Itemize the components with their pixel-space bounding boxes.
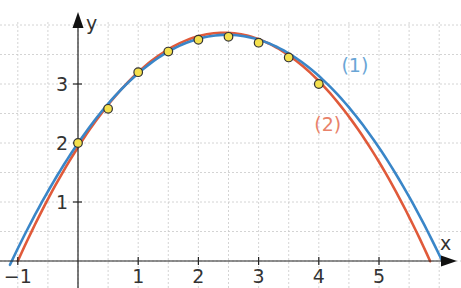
ticks: −112345123 xyxy=(4,73,385,287)
x-axis-label: x xyxy=(440,232,451,254)
curve-label-2: (2) xyxy=(314,113,341,135)
data-point xyxy=(224,33,233,42)
y-tick-label: 3 xyxy=(56,73,68,95)
y-tick-label: 1 xyxy=(56,191,68,213)
y-axis-arrow-icon xyxy=(73,12,84,28)
x-tick-label: 2 xyxy=(192,265,204,287)
curve-1 xyxy=(10,35,442,265)
x-tick-label: 5 xyxy=(373,265,385,287)
data-point xyxy=(74,139,83,148)
x-tick-label: −1 xyxy=(4,265,32,287)
x-tick-label: 3 xyxy=(253,265,265,287)
x-tick-label: 1 xyxy=(132,265,144,287)
data-point xyxy=(194,35,203,44)
data-point xyxy=(284,53,293,62)
x-axis-arrow-icon xyxy=(441,256,457,267)
curves xyxy=(10,33,442,265)
data-point xyxy=(104,104,113,113)
curve-label-1: (1) xyxy=(341,54,368,76)
y-axis-label: y xyxy=(86,12,97,34)
x-tick-label: 4 xyxy=(313,265,325,287)
chart: x y −112345123 (1)(2) xyxy=(0,0,461,288)
data-point xyxy=(164,47,173,56)
data-point xyxy=(315,80,324,89)
data-point xyxy=(254,38,263,47)
y-tick-label: 2 xyxy=(56,132,68,154)
data-point xyxy=(134,68,143,77)
